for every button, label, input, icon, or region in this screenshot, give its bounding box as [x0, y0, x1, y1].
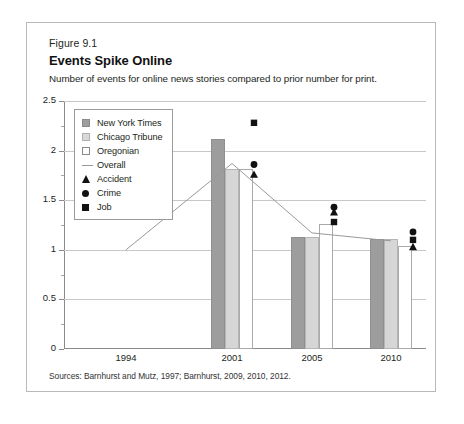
- y-tick-major: [59, 349, 64, 350]
- event-marker-square: [410, 237, 416, 243]
- figure-title: Events Spike Online: [49, 53, 172, 68]
- legend-item-label: Accident: [97, 174, 131, 184]
- legend-swatch-sq-icon: [82, 204, 97, 211]
- x-tick-label: 2001: [204, 352, 260, 363]
- legend-item-label: Crime: [97, 188, 121, 198]
- legend-item-label: New York Times: [97, 118, 161, 128]
- legend-swatch-ct-icon: [82, 133, 97, 141]
- legend-swatch-cir-icon: [82, 190, 97, 197]
- figure-number: Figure 9.1: [49, 37, 97, 49]
- event-marker-triangle: [250, 170, 258, 177]
- event-marker-triangle: [409, 243, 417, 250]
- legend-item-label: Job: [97, 202, 112, 212]
- legend-item[interactable]: Accident: [82, 172, 166, 186]
- figure-source-note: Sources: Barnhurst and Mutz, 1997; Barnh…: [49, 371, 291, 381]
- legend-swatch-tri-icon: [82, 175, 97, 183]
- event-marker-circle: [251, 161, 258, 168]
- legend-item[interactable]: New York Times: [82, 116, 166, 130]
- y-tick-label: 1: [30, 243, 56, 254]
- legend-item[interactable]: Crime: [82, 186, 166, 200]
- legend-item-label: Overall: [97, 160, 125, 170]
- x-tick-label: 1994: [98, 352, 154, 363]
- x-tick-label: 2005: [284, 352, 340, 363]
- x-tick-label: 2010: [363, 352, 419, 363]
- y-tick-label: 0.5: [30, 292, 56, 303]
- legend-item[interactable]: Chicago Tribune: [82, 130, 166, 144]
- y-tick-label: 1.5: [30, 193, 56, 204]
- event-marker-square: [331, 219, 337, 225]
- y-axis-labels: 00.511.522.5: [26, 101, 56, 349]
- event-marker-square: [251, 120, 257, 126]
- x-axis-labels: 1994200120052010: [64, 352, 426, 368]
- legend-item-label: Chicago Tribune: [97, 132, 162, 142]
- event-marker-circle: [410, 229, 417, 236]
- figure-subtitle: Number of events for online news stories…: [49, 73, 377, 84]
- legend-item[interactable]: Job: [82, 200, 166, 214]
- legend-swatch-line-icon: [82, 165, 97, 166]
- legend-item[interactable]: Oregonian: [82, 144, 166, 158]
- event-marker-circle: [331, 204, 338, 211]
- legend-swatch-or-icon: [82, 147, 97, 155]
- chart-legend: New York TimesChicago TribuneOregonianOv…: [74, 109, 173, 220]
- legend-item-label: Oregonian: [97, 146, 139, 156]
- y-tick-label: 2.5: [30, 94, 56, 105]
- y-tick-label: 2: [30, 144, 56, 155]
- y-tick-label: 0: [30, 342, 56, 353]
- legend-item[interactable]: Overall: [82, 158, 166, 172]
- legend-swatch-nyt-icon: [82, 119, 97, 127]
